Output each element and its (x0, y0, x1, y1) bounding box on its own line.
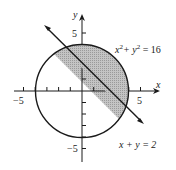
line-x-plus-y-eq-2 (44, 25, 144, 124)
y-axis (79, 14, 86, 162)
x-tick-label-neg5: −5 (13, 95, 24, 106)
line-equation-label: x + y = 2 (118, 139, 156, 150)
x-tick-label-5: 5 (137, 95, 142, 106)
x-axis-label: x (155, 79, 161, 90)
y-tick-label-5: 5 (72, 28, 77, 39)
y-tick-label-neg5: −5 (67, 143, 78, 154)
circle-equation-label: x2+ y2 = 16 (114, 43, 161, 55)
y-axis-label: y (72, 9, 78, 20)
graph: y x 5 −5 −5 5 x2+ y2 = 16 x + y = 2 (0, 0, 176, 170)
